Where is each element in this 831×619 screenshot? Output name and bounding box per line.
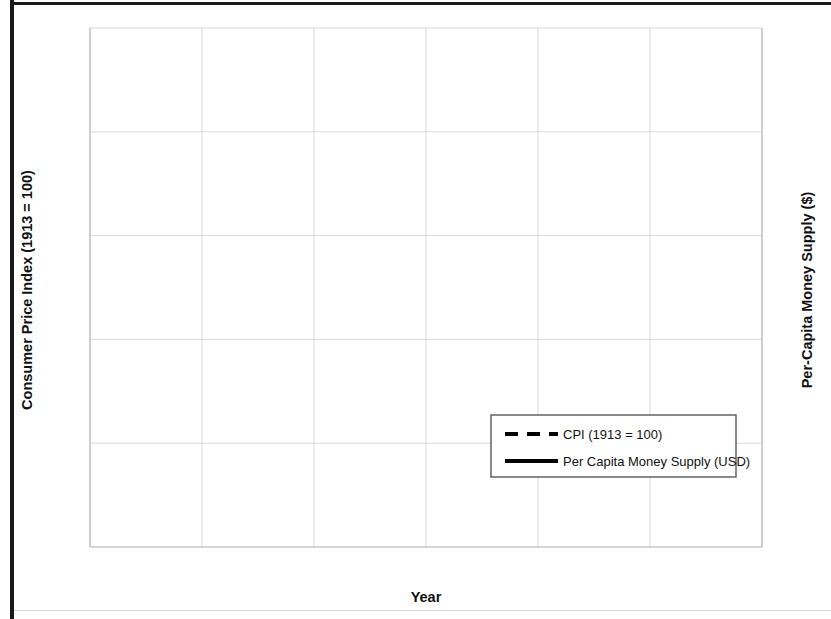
y2-axis-title: Per-Capita Money Supply ($) <box>799 192 815 389</box>
legend-label-money-supply: Per Capita Money Supply (USD) <box>563 454 750 469</box>
line-chart-plot: Consumer Price Index (1913 = 100) Per-Ca… <box>0 0 831 619</box>
chart-container: Consumer Price Index (1913 = 100) Per-Ca… <box>0 0 831 619</box>
chart-legend: CPI (1913 = 100) Per Capita Money Supply… <box>491 415 750 477</box>
x-axis-title: Year <box>411 589 442 605</box>
y-axis-title: Consumer Price Index (1913 = 100) <box>19 170 35 410</box>
legend-label-cpi: CPI (1913 = 100) <box>563 427 662 442</box>
